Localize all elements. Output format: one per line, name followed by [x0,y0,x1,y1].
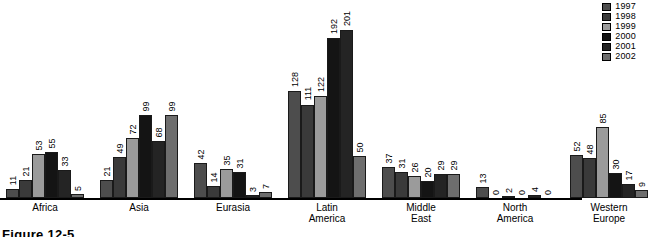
bar-value-label: 48 [585,144,594,154]
bar[interactable] [100,180,113,198]
bar-column[interactable]: 192 [327,0,340,198]
bar-column[interactable]: 9 [635,0,648,198]
bar-column[interactable]: 33 [58,0,71,198]
bar-column[interactable]: 21 [19,0,32,198]
x-axis-line [0,198,582,200]
legend-swatch-icon [602,53,611,61]
bar[interactable] [421,181,434,198]
bar-column[interactable]: 29 [447,0,460,198]
bar-column[interactable]: 29 [434,0,447,198]
bar-column[interactable]: 37 [382,0,395,198]
bar[interactable] [609,173,622,198]
bar-value-label: 31 [397,158,406,168]
category-axis-labels: AfricaAsiaEurasiaLatin AmericaMiddle Eas… [0,202,582,232]
bar[interactable] [32,154,45,198]
legend-item: 2001 [602,42,636,51]
bar[interactable] [288,91,301,198]
bar-column[interactable]: 3 [246,0,259,198]
bar-column[interactable]: 52 [570,0,583,198]
bar-value-label: 21 [21,166,30,176]
bar-column[interactable]: 4 [528,0,541,198]
bar[interactable] [220,169,233,198]
bar-column[interactable]: 72 [126,0,139,198]
bar-value-label: 0 [491,190,500,195]
bar-value-label: 99 [141,101,150,111]
bar-column[interactable]: 35 [220,0,233,198]
bar[interactable] [139,115,152,198]
bar-column[interactable]: 0 [541,0,554,198]
bar-value-label: 122 [316,77,325,92]
bar-column[interactable]: 0 [489,0,502,198]
bar-column[interactable]: 68 [152,0,165,198]
bar-column[interactable]: 49 [113,0,126,198]
bar-column[interactable]: 53 [32,0,45,198]
bar[interactable] [207,186,220,198]
bar-column[interactable]: 99 [139,0,152,198]
bar[interactable] [113,157,126,198]
legend-label: 1999 [615,22,636,31]
bar-column[interactable]: 20 [421,0,434,198]
legend-label: 2002 [615,52,636,61]
bar-column[interactable]: 26 [408,0,421,198]
bar[interactable] [165,115,178,198]
bar-value-label: 4 [530,187,539,192]
bar[interactable] [408,176,421,198]
bar[interactable] [476,187,489,198]
bar-value-label: 5 [73,186,82,191]
category-label: Western Europe [570,202,648,224]
bar-value-label: 68 [154,127,163,137]
bar[interactable] [58,170,71,198]
bar[interactable] [353,156,366,198]
bar-column[interactable]: 48 [583,0,596,198]
bar[interactable] [45,152,58,198]
bar[interactable] [126,138,139,198]
category-label: Middle East [382,202,460,224]
bar[interactable] [233,172,246,198]
bar[interactable] [194,163,207,198]
bar-column[interactable]: 7 [259,0,272,198]
bar-column[interactable]: 0 [515,0,528,198]
bar[interactable] [622,184,635,198]
bar-group: 1302040 [476,0,554,198]
bar[interactable] [395,172,408,198]
bar[interactable] [635,190,648,198]
bar-value-label: 2 [504,188,513,193]
bar-group: 373126202929 [382,0,460,198]
bar[interactable] [382,167,395,198]
bar[interactable] [314,96,327,198]
bar-column[interactable]: 11 [6,0,19,198]
bar-column[interactable]: 13 [476,0,489,198]
bar-column[interactable]: 42 [194,0,207,198]
bar-column[interactable]: 31 [233,0,246,198]
bar[interactable] [19,180,32,198]
category-label: Eurasia [194,202,272,213]
bar-value-label: 14 [209,172,218,182]
bar[interactable] [340,30,353,198]
bar-column[interactable]: 111 [301,0,314,198]
bar-column[interactable]: 5 [71,0,84,198]
bar[interactable] [583,158,596,198]
bar-column[interactable]: 128 [288,0,301,198]
bar[interactable] [301,105,314,198]
bar-column[interactable]: 14 [207,0,220,198]
legend-swatch-icon [602,43,611,51]
bar-column[interactable]: 122 [314,0,327,198]
bar[interactable] [447,174,460,198]
bar[interactable] [570,155,583,198]
bar-column[interactable]: 55 [45,0,58,198]
bar-column[interactable]: 50 [353,0,366,198]
bar-column[interactable]: 201 [340,0,353,198]
legend-label: 2001 [615,42,636,51]
bar[interactable] [6,189,19,198]
bar-column[interactable]: 99 [165,0,178,198]
bar[interactable] [152,141,165,198]
bar-column[interactable]: 2 [502,0,515,198]
bar-column[interactable]: 21 [100,0,113,198]
category-label: Latin America [288,202,366,224]
bar[interactable] [596,127,609,198]
bar[interactable] [434,174,447,198]
bar-value-label: 9 [637,182,646,187]
bar[interactable] [327,38,340,198]
bar-column[interactable]: 31 [395,0,408,198]
